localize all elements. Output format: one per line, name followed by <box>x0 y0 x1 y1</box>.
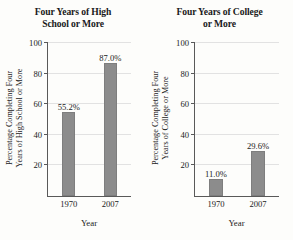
y-axis-tick <box>44 164 48 165</box>
gridline <box>48 73 131 74</box>
y-axis-title-wrapper-high-school: Percentage Completing Four Years of High… <box>2 38 28 198</box>
y-axis-tick <box>191 134 195 135</box>
bar-value-label: 29.6% <box>247 141 269 151</box>
y-axis-title-college: Percentage Completing Four Years of Coll… <box>151 71 172 165</box>
y-axis-title-high-school: Percentage Completing Four Years of High… <box>5 68 26 167</box>
chart-title-line-1: Four Years of College <box>146 6 293 18</box>
chart-title-line-1: Four Years of High <box>0 6 146 18</box>
x-axis-tick-label: 2007 <box>249 199 266 209</box>
x-axis-tick-label: 2007 <box>102 199 119 209</box>
y-axis-tick <box>191 42 195 43</box>
two-panel-bar-chart-figure: Four Years of High School or More Percen… <box>0 0 293 240</box>
y-axis-tick-label: 20 <box>180 160 189 170</box>
y-axis-tick-label: 100 <box>29 38 42 48</box>
bar-value-label: 55.2% <box>58 102 80 112</box>
bar-value-label: 11.0% <box>205 169 227 179</box>
gridline <box>195 134 279 135</box>
y-axis-title-line-1: Percentage Completing Four <box>5 68 15 167</box>
gridline <box>48 42 131 43</box>
plot-area-college: 20406080100 11.0%197029.6%2007 <box>194 43 279 197</box>
gridline <box>48 134 131 135</box>
bar: 11.0% <box>209 179 222 196</box>
x-axis-tick-label: 1970 <box>207 199 224 209</box>
gridline <box>195 73 279 74</box>
x-axis-title-high-school: Year <box>47 218 131 228</box>
chart-title-college: Four Years of College or More <box>146 6 293 29</box>
y-axis-tick-label: 60 <box>33 99 42 109</box>
chart-title-high-school: Four Years of High School or More <box>0 6 146 29</box>
chart-title-line-2: School or More <box>0 18 146 30</box>
y-axis-tick-label: 60 <box>180 99 189 109</box>
bar: 55.2% <box>62 112 75 196</box>
y-axis-tick <box>44 73 48 74</box>
y-axis-tick-label: 80 <box>180 69 189 79</box>
bar-value-label: 87.0% <box>99 53 121 63</box>
x-axis-title-college: Year <box>194 218 279 228</box>
y-axis-title-line-2: Years of High School or More <box>15 68 25 167</box>
x-axis-tick-label: 1970 <box>60 199 77 209</box>
y-axis-tick-label: 40 <box>180 130 189 140</box>
y-axis-title-line-1: Percentage Completing Four <box>151 71 161 165</box>
y-axis-tick <box>191 103 195 104</box>
chart-title-line-2: or More <box>146 18 293 30</box>
gridline <box>195 42 279 43</box>
chart-panel-college: Four Years of College or More Percentage… <box>146 0 293 240</box>
y-axis-tick <box>44 103 48 104</box>
y-axis-tick-label: 40 <box>33 130 42 140</box>
y-axis-tick <box>44 134 48 135</box>
chart-panel-high-school: Four Years of High School or More Percen… <box>0 0 146 240</box>
bar: 87.0% <box>104 63 117 196</box>
gridline <box>195 164 279 165</box>
y-axis-tick <box>191 73 195 74</box>
y-axis-title-wrapper-college: Percentage Completing Four Years of Coll… <box>148 38 174 198</box>
gridline <box>195 103 279 104</box>
y-axis-tick-label: 80 <box>33 69 42 79</box>
gridline <box>48 164 131 165</box>
y-axis-tick <box>191 164 195 165</box>
y-axis-tick <box>44 42 48 43</box>
plot-area-high-school: 20406080100 55.2%197087.0%2007 <box>47 43 131 197</box>
bar: 29.6% <box>251 151 264 196</box>
y-axis-tick-label: 20 <box>33 160 42 170</box>
y-axis-title-line-2: Years of College or More <box>161 71 171 165</box>
y-axis-tick-label: 100 <box>176 38 189 48</box>
